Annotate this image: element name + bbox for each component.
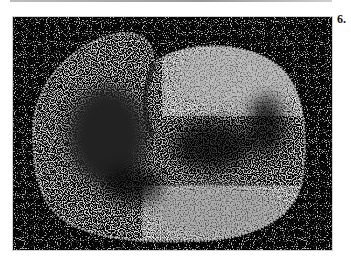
panel-label: 6. [337, 12, 346, 27]
top-rule [10, 0, 332, 2]
micrograph-image [12, 16, 333, 251]
cell-micrograph-svg [13, 17, 332, 250]
